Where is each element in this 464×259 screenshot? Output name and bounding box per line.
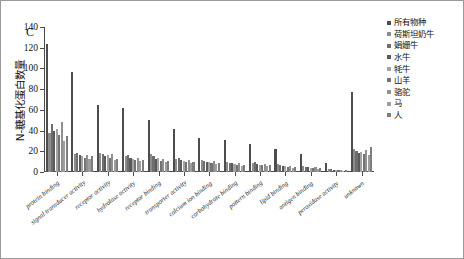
legend-swatch-icon: [387, 21, 391, 25]
bar-group: [198, 27, 220, 172]
chart-frame: C N-糖基化蛋白数量 020406080100120140 protein b…: [0, 0, 464, 259]
bar: [167, 161, 169, 172]
bar-group: [274, 27, 296, 172]
bar: [294, 167, 296, 172]
legend-label: 牦牛: [394, 65, 410, 73]
bar: [370, 147, 372, 172]
x-tick-mark: [159, 172, 160, 176]
legend-label: 人: [394, 111, 402, 119]
x-tick-mark: [336, 172, 337, 176]
bar: [116, 159, 118, 172]
y-tick-label: 120: [24, 43, 38, 53]
legend-label: 荷斯坦奶牛: [394, 30, 434, 38]
y-tick-mark: [40, 131, 44, 132]
legend-swatch-icon: [387, 44, 391, 48]
x-tick-mark: [57, 172, 58, 176]
y-tick-label: 140: [24, 22, 38, 32]
x-tick-mark: [260, 172, 261, 176]
legend: 所有物种荷斯坦奶牛娟姗牛水牛牦牛山羊骆驼马人: [387, 17, 464, 121]
y-axis-line: [44, 27, 45, 172]
y-tick-label: 20: [29, 146, 39, 156]
legend-item[interactable]: 人: [387, 110, 464, 121]
legend-item[interactable]: 马: [387, 98, 464, 109]
y-tick-label: 0: [33, 167, 38, 177]
x-axis-label: unknown: [342, 179, 365, 199]
x-tick-mark: [235, 172, 236, 176]
x-tick-mark: [184, 172, 185, 176]
legend-swatch-icon: [387, 102, 391, 106]
y-tick-mark: [40, 27, 44, 28]
bar-group: [351, 27, 373, 172]
bar: [91, 156, 93, 172]
y-tick-mark: [40, 48, 44, 49]
x-tick-mark: [108, 172, 109, 176]
x-tick-mark: [82, 172, 83, 176]
legend-item[interactable]: 荷斯坦奶牛: [387, 29, 464, 40]
bar-group: [300, 27, 322, 172]
bar: [192, 162, 194, 172]
legend-swatch-icon: [387, 78, 391, 82]
legend-item[interactable]: 牦牛: [387, 63, 464, 74]
bar: [345, 170, 347, 172]
bar-group: [148, 27, 170, 172]
bar: [142, 160, 144, 172]
y-tick-label: 60: [29, 105, 39, 115]
bar-group: [97, 27, 119, 172]
x-axis-label: carbohydrate binding: [189, 179, 238, 220]
bar: [319, 168, 321, 172]
x-tick-mark: [209, 172, 210, 176]
legend-label: 水牛: [394, 53, 410, 61]
legend-label: 娟姗牛: [394, 41, 418, 49]
legend-swatch-icon: [387, 90, 391, 94]
bar-group: [46, 27, 68, 172]
legend-label: 所有物种: [394, 18, 426, 26]
y-tick-label: 40: [29, 126, 39, 136]
bar: [218, 163, 220, 172]
x-tick-mark: [133, 172, 134, 176]
legend-label: 山羊: [394, 76, 410, 84]
y-tick-mark: [40, 89, 44, 90]
y-tick-mark: [40, 68, 44, 69]
bar: [243, 165, 245, 172]
y-tick-mark: [40, 151, 44, 152]
y-tick-mark: [40, 172, 44, 173]
y-tick-label: 100: [24, 63, 38, 73]
legend-label: 骆驼: [394, 88, 410, 96]
bar: [66, 136, 68, 172]
x-tick-mark: [285, 172, 286, 176]
bar-group: [325, 27, 347, 172]
bar-group: [249, 27, 271, 172]
y-tick-mark: [40, 110, 44, 111]
bar-group: [122, 27, 144, 172]
bar-group: [224, 27, 246, 172]
legend-swatch-icon: [387, 55, 391, 59]
legend-label: 马: [394, 99, 402, 107]
y-tick-label: 80: [29, 84, 39, 94]
x-axis-labels: protein bindingsignal transducer activit…: [44, 177, 384, 237]
plot-area: 020406080100120140: [44, 27, 374, 172]
bar-group: [173, 27, 195, 172]
legend-swatch-icon: [387, 32, 391, 36]
legend-item[interactable]: 水牛: [387, 52, 464, 63]
legend-swatch-icon: [387, 67, 391, 71]
legend-item[interactable]: 所有物种: [387, 17, 464, 28]
bar: [269, 165, 271, 172]
legend-swatch-icon: [387, 113, 391, 117]
bar-group: [71, 27, 93, 172]
x-tick-mark: [311, 172, 312, 176]
legend-item[interactable]: 山羊: [387, 75, 464, 86]
legend-item[interactable]: 娟姗牛: [387, 40, 464, 51]
legend-item[interactable]: 骆驼: [387, 87, 464, 98]
x-tick-mark: [362, 172, 363, 176]
